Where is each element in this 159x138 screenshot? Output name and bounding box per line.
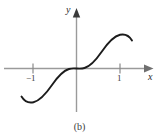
x-tick-label-negative-one: −1	[26, 74, 36, 83]
x-tick-label-positive-one: 1	[117, 74, 122, 83]
graph-canvas	[0, 0, 159, 138]
y-axis-arrowhead	[73, 8, 80, 18]
x-axis-label: x	[148, 72, 152, 82]
figure-panel-b: y x −1 1 (b)	[0, 0, 159, 138]
figure-caption: (b)	[0, 121, 159, 132]
y-axis-label: y	[66, 5, 70, 15]
